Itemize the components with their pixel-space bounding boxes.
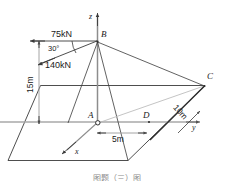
force-label-75kn: 75kN	[51, 30, 72, 39]
figure-canvas: z y x B C A D 75kN 140kN 30° 15m 5m 10m …	[0, 0, 233, 181]
angle-label-30: 30°	[48, 45, 59, 53]
member-b-to-c	[98, 42, 205, 86]
point-b-marker	[96, 40, 98, 42]
point-label-b: B	[101, 30, 107, 39]
dimension-label-15m: 15m	[26, 76, 35, 93]
point-d-marker	[148, 121, 150, 123]
axis-x-label: x	[75, 148, 79, 156]
figure-caption: 图题（三）图	[0, 172, 233, 181]
ground-plane-parallelogram	[8, 86, 205, 161]
axis-x-arrow	[62, 142, 76, 154]
axis-z-label: z	[89, 13, 92, 21]
point-label-c: C	[207, 72, 213, 81]
force-label-140kn: 140kN	[45, 61, 71, 70]
point-c-marker	[203, 85, 205, 87]
origin-marker-circle	[96, 121, 100, 125]
point-label-a: A	[88, 111, 94, 120]
dimension-label-5m: 5m	[112, 135, 124, 144]
axis-y-label: y	[192, 124, 196, 132]
members-from-b	[68, 42, 205, 161]
point-label-d: D	[143, 111, 150, 120]
